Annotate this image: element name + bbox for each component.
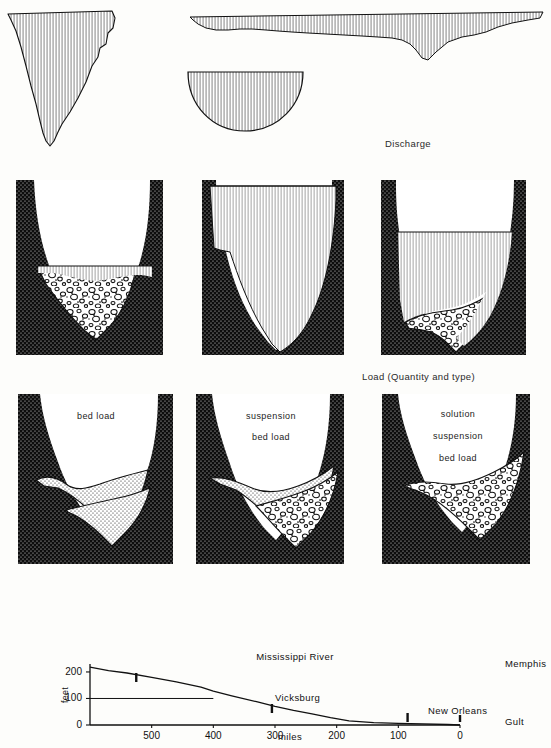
x-tick-label: 400 [205,730,222,741]
panel-label-suspension-3: suspension [433,431,483,441]
figure-root: Discharge Load (Quantity and type) bed l… [0,0,551,748]
channel-panel-solution-suspension-bedload [382,394,530,564]
label-load: Load (Quantity and type) [362,371,475,382]
discharge-panel-narrow-deep [8,11,115,146]
discharge-panel-semicircular [188,72,303,131]
panel-label-suspension-2: suspension [246,411,296,421]
channel-panel-headwater [16,180,163,355]
panel-label-bed-load-2: bed load [252,432,290,442]
city-label-gult: Gult [505,716,524,727]
panel-label-bed-load-3: bed load [439,453,477,463]
y-tick-label: 100 [65,692,82,703]
y-tick-label: 200 [65,666,82,677]
x-tick-label: 200 [328,730,345,741]
x-tick-label: 300 [267,730,284,741]
x-tick-label: 0 [457,730,463,741]
hydrograph-shape-1 [8,11,115,146]
y-tick-label: 0 [76,719,82,730]
city-label-vicksburg: Vicksburg [275,692,320,703]
panel-label-bed-load-1: bed load [77,411,115,421]
profile-chart-graphics [86,664,460,728]
chart-title: Mississippi River [256,651,334,662]
channel-panel-middle [202,180,344,355]
channel-panel-lower [381,180,526,355]
discharge-panel-wide-shallow [190,12,543,60]
panel-label-solution-3: solution [441,409,476,419]
city-label-new-orleans: New Orleans [428,705,487,716]
x-tick-label: 100 [390,730,407,741]
hydrograph-shape-3 [190,12,543,60]
city-label-memphis: Memphis [505,658,546,669]
x-tick-label: 500 [143,730,160,741]
label-discharge: Discharge [385,138,431,149]
hydrograph-shape-2 [188,72,303,131]
